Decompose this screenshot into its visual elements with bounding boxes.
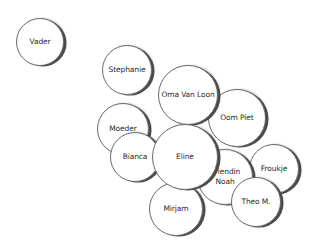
bubble-vader: Vader xyxy=(16,18,64,66)
bubble-label: Mirjam xyxy=(163,204,188,214)
bubble-label: Eline xyxy=(176,152,194,162)
bubble-label: Theo M. xyxy=(241,197,270,207)
bubble-label: Froukje xyxy=(261,164,287,174)
bubble-label: Oom Piet xyxy=(220,113,253,123)
bubble-label: Stephanie xyxy=(109,65,146,75)
bubble-oma-van-loon: Oma Van Loon xyxy=(158,65,218,125)
bubble-label: Bianca xyxy=(123,152,148,162)
bubble-eline: Eline xyxy=(152,124,218,190)
bubble-stephanie: Stephanie xyxy=(102,45,152,95)
bubble-label: Vader xyxy=(29,37,50,47)
bubble-mirjam: Mirjam xyxy=(149,182,203,236)
bubble-label: Oma Van Loon xyxy=(161,90,214,100)
bubble-diagram: VaderStephanieOom PietOma Van LoonMoeder… xyxy=(0,0,312,244)
bubble-theo-m: Theo M. xyxy=(231,177,281,227)
